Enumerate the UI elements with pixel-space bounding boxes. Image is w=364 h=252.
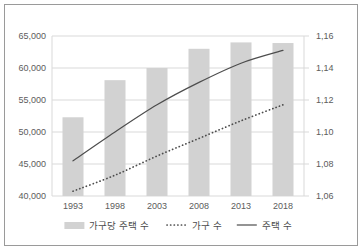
chart-legend: 가구당 주택 수가구 수주택 수 [64,220,291,231]
x-axis-tick-label: 2003 [147,201,167,211]
right-axis-tick-label: 1,12 [316,95,334,105]
combo-chart: 40,00045,00050,00055,00060,00065,000 1,0… [5,5,359,247]
legend-item-label: 가구 수 [192,220,222,231]
x-axis-tick-label: 1998 [105,201,125,211]
x-axis-tick-label: 2013 [231,201,251,211]
x-axis-tick-label: 2018 [273,201,293,211]
right-axis: 1,061,081,101,121,141,16 [304,31,334,201]
right-axis-tick-label: 1,08 [316,159,334,169]
left-axis-tick-label: 60,000 [18,63,46,73]
x-axis-tick-label: 2008 [189,201,209,211]
right-axis-tick-label: 1,16 [316,31,334,41]
legend-item-label: 주택 수 [262,220,292,231]
left-axis: 40,00045,00050,00055,00060,00065,000 [18,31,46,201]
bar [147,68,168,196]
bar [63,117,84,196]
right-axis-tick-label: 1,06 [316,191,334,201]
right-axis-tick-label: 1,10 [316,127,334,137]
legend-item-label: 가구당 주택 수 [89,220,149,231]
left-axis-tick-label: 65,000 [18,31,46,41]
right-axis-tick-label: 1,14 [316,63,334,73]
bar [231,42,252,196]
x-axis-tick-label: 1993 [63,201,83,211]
chart-frame: 40,00045,00050,00055,00060,00065,000 1,0… [4,4,358,246]
legend-bar-swatch [64,222,84,229]
gridlines [52,36,304,196]
x-axis: 199319982003200820132018 [63,201,293,211]
left-axis-tick-label: 50,000 [18,127,46,137]
left-axis-tick-label: 55,000 [18,95,46,105]
bar-series [63,42,294,196]
chart-plot-area: 40,00045,00050,00055,00060,00065,000 1,0… [5,5,359,247]
left-axis-tick-label: 40,000 [18,191,46,201]
left-axis-tick-label: 45,000 [18,159,46,169]
bar [189,49,210,196]
bar [273,43,294,196]
